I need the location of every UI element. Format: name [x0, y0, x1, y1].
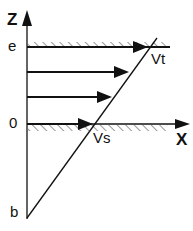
level-zero-label: 0	[9, 115, 17, 130]
z-axis-arrow-icon	[22, 10, 32, 26]
arrowhead-icon	[114, 66, 129, 78]
x-axis-arrow-icon	[175, 119, 190, 129]
velocity-arrow-lower	[27, 91, 112, 103]
velocity-profile-diagram	[0, 0, 193, 231]
x-axis-label: X	[176, 131, 187, 148]
z-axis-label: Z	[7, 11, 17, 28]
z-axis	[22, 10, 32, 219]
velocity-top-label: Vt	[151, 51, 165, 66]
velocity-arrow-middle	[27, 66, 129, 78]
velocity-surface-label: Vs	[93, 130, 111, 145]
level-e-label: e	[8, 38, 16, 53]
level-b-label: b	[10, 204, 18, 219]
arrowhead-icon	[97, 91, 112, 103]
